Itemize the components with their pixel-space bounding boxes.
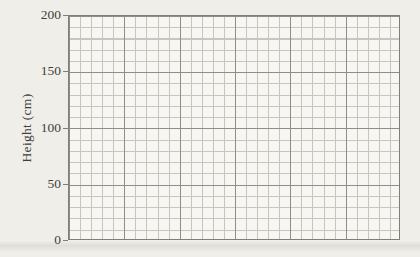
y-tick-label: 100 — [0, 121, 61, 135]
y-tick-label: 200 — [0, 8, 61, 22]
scan-shadow — [0, 241, 420, 251]
y-tick-label: 0 — [0, 233, 61, 247]
chart-figure: Height (cm) 050100150200 — [0, 0, 420, 257]
y-tick-mark — [63, 184, 68, 185]
plot-area — [68, 15, 400, 240]
y-tick-label: 50 — [0, 177, 61, 191]
y-tick-mark — [63, 15, 68, 16]
y-tick-mark — [63, 71, 68, 72]
y-tick-mark — [63, 240, 68, 241]
y-tick-label: 150 — [0, 65, 61, 79]
y-tick-mark — [63, 128, 68, 129]
